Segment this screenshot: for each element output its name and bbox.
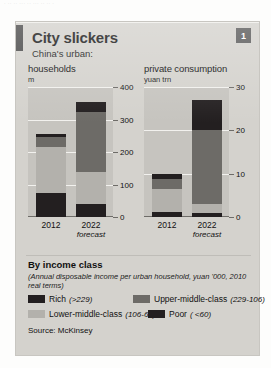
x-axis-label-2012: 2012 xyxy=(145,220,189,230)
legend-item-lower[interactable]: Lower-middle-class(106-60) xyxy=(28,309,155,319)
axis-tick xyxy=(229,130,234,131)
legend-range: ( <60) xyxy=(190,310,211,319)
bar-segment xyxy=(192,213,222,217)
axis-tick xyxy=(113,217,118,218)
bar-segment xyxy=(152,179,182,189)
panel-unit-households: m xyxy=(28,75,34,84)
page-top-cut-text: · ·· ·· ··· ·· ··· ·· ·· · xyxy=(4,1,164,8)
chart-card-page: · ·· ·· ··· ·· ··· ·· ·· · City slickers… xyxy=(0,0,271,368)
legend-row: Lower-middle-class(106-60)Poor( <60) xyxy=(28,309,253,320)
bar-segment xyxy=(36,137,66,147)
bar-segment xyxy=(76,102,106,113)
axis-tick xyxy=(229,87,234,88)
plot-area-private-consumption: 0102030 xyxy=(144,87,229,217)
bar-segment xyxy=(76,172,106,205)
x-axis-label-2012: 2012 xyxy=(29,220,73,230)
panel-private-consumption: private consumption yuan trn 0102030 201… xyxy=(144,63,254,263)
legend-range: (229-106) xyxy=(230,295,265,304)
panel-title-private-consumption: private consumption xyxy=(144,63,227,74)
legend-item-poor[interactable]: Poor( <60) xyxy=(148,309,211,319)
bar-segment xyxy=(192,204,222,213)
axis-tick xyxy=(113,152,118,153)
legend-swatch-rich xyxy=(28,295,45,303)
bar-2012 xyxy=(152,174,182,217)
gridline xyxy=(144,87,229,88)
legend-swatch-upper xyxy=(133,295,150,303)
forecast-note: forecast xyxy=(185,230,229,239)
legend-item-upper[interactable]: Upper-middle-class(229-106) xyxy=(133,294,265,304)
axis-tick-label: 20 xyxy=(236,126,245,135)
legend-item-rich[interactable]: Rich(>229) xyxy=(28,294,92,304)
axis-tick xyxy=(113,120,118,121)
x-axis-label-2022: 2022forecast xyxy=(69,220,113,239)
chart-card: City slickers China's urban: 1 household… xyxy=(16,22,259,355)
axis-tick-label: 30 xyxy=(236,83,245,92)
legend-swatch-lower xyxy=(28,310,45,318)
bar-segment xyxy=(152,189,182,212)
legend-label: Lower-middle-class xyxy=(49,309,122,319)
bar-segment xyxy=(192,130,222,204)
legend-divider xyxy=(26,255,251,256)
axis-tick-label: 0 xyxy=(236,213,240,222)
legend-heading: By income class xyxy=(28,259,102,270)
legend-swatch-poor xyxy=(148,310,165,318)
axis-tick-label: 400 xyxy=(120,83,133,92)
bar-segment xyxy=(76,204,106,217)
title-accent-tab xyxy=(16,25,23,51)
bar-2012 xyxy=(36,134,66,217)
page-subtitle: China's urban: xyxy=(32,48,93,59)
axis-tick xyxy=(229,217,234,218)
bar-segment xyxy=(36,147,66,193)
legend-range: (>229) xyxy=(69,295,92,304)
figure-number-badge: 1 xyxy=(236,28,251,43)
panel-title-households: households xyxy=(28,63,76,74)
axis-tick xyxy=(113,185,118,186)
axis-tick xyxy=(229,174,234,175)
bar-segment xyxy=(76,112,106,171)
forecast-note: forecast xyxy=(69,230,113,239)
x-axis-label-2022: 2022forecast xyxy=(185,220,229,239)
bar-segment xyxy=(36,193,66,217)
page-title: City slickers xyxy=(32,29,118,46)
panel-households: households m 0100200300400 2012 2022fore… xyxy=(28,63,138,263)
bar-2022 xyxy=(192,100,222,217)
axis-tick-label: 0 xyxy=(120,213,124,222)
legend-label: Upper-middle-class xyxy=(154,294,227,304)
axis-tick-label: 300 xyxy=(120,115,133,124)
axis-tick-label: 200 xyxy=(120,148,133,157)
source-note: Source: McKinsey xyxy=(28,326,92,335)
plot-area-households: 0100200300400 xyxy=(28,87,113,217)
bar-2022 xyxy=(76,102,106,217)
legend-note: (Annual disposable income per urban hous… xyxy=(28,272,248,291)
panel-unit-private-consumption: yuan trn xyxy=(144,75,171,84)
legend-label: Poor xyxy=(169,309,187,319)
bar-segment xyxy=(152,212,182,217)
legend-row: Rich(>229)Upper-middle-class(229-106) xyxy=(28,294,253,305)
gridline xyxy=(28,87,113,88)
bar-segment xyxy=(192,100,222,130)
axis-tick-label: 100 xyxy=(120,180,133,189)
axis-tick xyxy=(113,87,118,88)
axis-tick-label: 10 xyxy=(236,169,245,178)
legend-label: Rich xyxy=(49,294,66,304)
